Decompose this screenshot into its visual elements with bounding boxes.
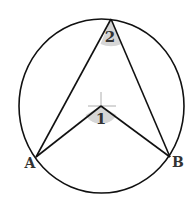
point-A-label: A — [24, 155, 37, 171]
circle-angle-diagram: 2 1 A B — [0, 0, 195, 205]
radius-center-A — [36, 106, 101, 157]
angle-1-label: 1 — [96, 110, 106, 128]
point-B-label: B — [172, 154, 184, 170]
chord-top-B — [111, 19, 170, 157]
angle-2-label: 2 — [105, 28, 115, 46]
